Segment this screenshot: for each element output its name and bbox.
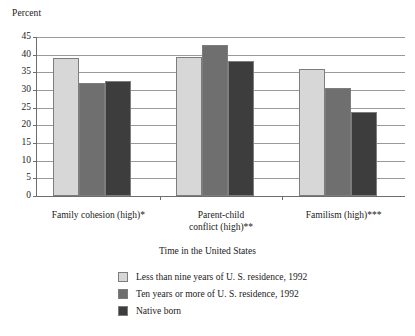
y-tick-label: 25 <box>22 103 32 113</box>
category-label: Parent-childconflict (high)** <box>189 209 253 233</box>
bar <box>79 83 105 196</box>
bars-layer <box>37 37 405 196</box>
y-tick-label: 0 <box>26 191 31 201</box>
y-tick-label: 30 <box>22 85 32 95</box>
bar <box>351 112 377 196</box>
y-tick-label: 35 <box>22 68 32 78</box>
bar <box>53 58 79 196</box>
legend-item: Ten years or more of U. S. residence, 19… <box>118 285 307 302</box>
chart-legend: Less than nine years of U. S. residence,… <box>118 268 307 319</box>
bar <box>176 57 202 196</box>
legend-label: Less than nine years of U. S. residence,… <box>136 272 307 282</box>
legend-swatch <box>118 272 128 282</box>
y-tick-label: 10 <box>22 156 32 166</box>
x-tick-mark <box>160 196 161 200</box>
bar-chart-figure: Percent 051015202530354045 Family cohesi… <box>0 0 415 336</box>
category-label-line: Familism (high)*** <box>306 209 382 221</box>
y-tick-label: 45 <box>22 32 32 42</box>
bar <box>299 69 325 196</box>
category-label-line: Family cohesion (high)* <box>52 209 145 221</box>
category-label: Familism (high)*** <box>306 209 382 221</box>
y-tick-label: 20 <box>22 121 32 131</box>
legend-label: Native born <box>136 306 181 316</box>
x-axis-title: Time in the United States <box>0 246 415 256</box>
category-label: Family cohesion (high)* <box>52 209 145 221</box>
y-tick-label: 40 <box>22 50 32 60</box>
y-axis-title: Percent <box>12 8 41 18</box>
bar <box>202 45 228 196</box>
legend-label: Ten years or more of U. S. residence, 19… <box>136 289 299 299</box>
y-tick-label: 15 <box>22 138 32 148</box>
plot-area: 051015202530354045 Family cohesion (high… <box>36 37 405 197</box>
bar <box>105 81 131 196</box>
legend-swatch <box>118 289 128 299</box>
legend-item: Less than nine years of U. S. residence,… <box>118 268 307 285</box>
category-label-line: conflict (high)** <box>189 221 253 233</box>
x-tick-mark <box>282 196 283 200</box>
bar <box>228 61 254 196</box>
y-tick-mark <box>33 196 37 197</box>
legend-item: Native born <box>118 302 307 319</box>
category-label-line: Parent-child <box>189 209 253 221</box>
y-tick-label: 5 <box>26 174 31 184</box>
legend-swatch <box>118 306 128 316</box>
bar <box>325 88 351 196</box>
